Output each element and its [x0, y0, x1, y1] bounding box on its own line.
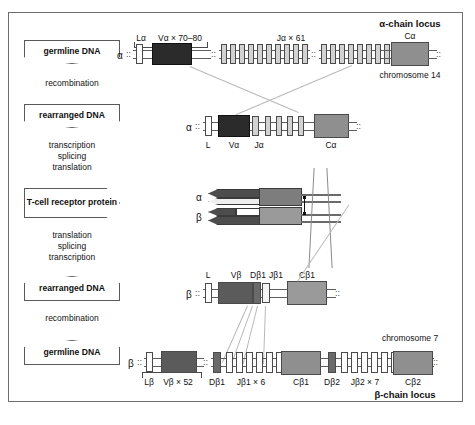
chain-label-beta-protein: β — [196, 212, 202, 224]
beta-germline-j2-segment — [361, 352, 368, 373]
alpha-germline-j-segment — [384, 44, 390, 64]
beta-germline-d1-label: Dβ1 — [209, 377, 225, 387]
protein-alpha-tm-top — [301, 194, 341, 196]
beta-germline-v-segment — [161, 351, 197, 373]
alpha-germline-j-segment — [248, 44, 254, 64]
alpha-germline-j-segment — [366, 44, 372, 64]
process-transcription-2: transcription — [49, 252, 95, 262]
chain-label-alpha-rearranged: α — [186, 122, 192, 134]
beta-germline-d1-segment — [213, 352, 221, 373]
alpha-germline-j-segment — [275, 44, 281, 64]
alpha-germline-j-segment — [257, 44, 263, 64]
figure-root: α-chain locus chromosome 14 chromosome 7… — [0, 0, 475, 425]
beta-germline-leader-label: Lβ — [144, 377, 154, 387]
process-recombination-bottom: recombination — [45, 313, 98, 323]
beta-germline-c2-label: Cβ2 — [405, 377, 421, 387]
beta-germline-j1-segment — [226, 352, 233, 373]
alpha-germline-j-segment — [357, 44, 363, 64]
protein-beta-c-domain — [259, 207, 302, 225]
protein-alpha-tm-bot — [301, 201, 341, 203]
alpha-rearranged-v-segment — [218, 115, 250, 137]
beta-germline-j2-segment — [351, 352, 358, 373]
alpha-germline-j-segment — [302, 44, 308, 64]
chain-label-alpha-germline: α — [117, 50, 123, 62]
beta-rearranged-d-label: Dβ1 — [250, 270, 266, 280]
alpha-rearranged-v-label: Vα — [229, 140, 240, 150]
alpha-rearranged-j-label: Jα — [254, 140, 263, 150]
beta-germline-d2-label: Dβ2 — [324, 377, 340, 387]
beta-germline-j1-label: Jβ1 × 6 — [237, 377, 265, 387]
alpha-germline-j-segment — [293, 44, 299, 64]
beta-rearranged-l-segment — [205, 283, 212, 303]
alpha-rearranged-l-label: L — [206, 140, 211, 150]
process-splicing-1: splicing — [58, 151, 86, 161]
disulfide-bond — [304, 198, 305, 213]
alpha-germline-j-segment — [239, 44, 245, 64]
beta-rearranged-v-segment — [218, 282, 253, 304]
process-splicing-2: splicing — [58, 241, 86, 251]
beta-germline-leader-segment — [146, 352, 153, 372]
alpha-germline-j-label: Jα × 61 — [277, 33, 305, 43]
beta-germline-j2-segment — [381, 352, 388, 373]
beta-germline-c1-label: Cβ1 — [293, 377, 309, 387]
alpha-chain-locus-title: α-chain locus — [379, 18, 440, 29]
process-translation-1: translation — [52, 162, 91, 172]
protein-beta-dj-domain — [236, 208, 260, 216]
beta-germline-c2-segment — [393, 351, 433, 375]
beta-germline-c1-segment — [281, 351, 321, 375]
beta-germline-j1-segment — [236, 352, 243, 373]
chain-label-beta-germline: β — [128, 358, 134, 370]
alpha-germline-j-segment — [221, 44, 227, 64]
alpha-germline-c-label: Cα — [404, 31, 415, 41]
alpha-germline-j-segment — [339, 44, 345, 64]
beta-rearranged-j-label: Jβ1 — [269, 270, 283, 280]
protein-beta-tm-top — [301, 214, 341, 216]
alpha-germline-v-segment — [152, 43, 192, 65]
beta-germline-j2-segment — [341, 352, 348, 373]
process-transcription-1: transcription — [49, 140, 95, 150]
alpha-rearranged-c-segment — [314, 114, 349, 138]
chain-label-alpha-protein: α — [196, 192, 202, 204]
beta-rearranged-v-label: Vβ — [231, 270, 242, 280]
beta-germline-v-label: Vβ × 52 — [163, 377, 193, 387]
alpha-germline-j-segment — [321, 44, 327, 64]
protein-alpha-c-domain — [259, 188, 302, 206]
alpha-rearranged-j-segment — [252, 116, 259, 136]
alpha-germline-j-segment — [266, 44, 272, 64]
process-recombination-top: recombination — [45, 78, 98, 88]
beta-germline-j1-segment — [266, 352, 273, 373]
chain-label-beta-rearranged: β — [186, 289, 192, 301]
alpha-germline-j-segment — [330, 44, 336, 64]
protein-beta-v-lower — [208, 216, 260, 225]
alpha-germline-leader-segment — [136, 44, 143, 64]
alpha-germline-j-segment — [284, 44, 290, 64]
beta-germline-j1-segment — [256, 352, 263, 373]
beta-germline-j2-label: Jβ2 × 7 — [351, 377, 379, 387]
beta-rearranged-j-segment — [262, 283, 270, 303]
beta-rearranged-l-label: L — [206, 270, 211, 280]
alpha-rearranged-extra-j-segment — [287, 116, 293, 136]
alpha-rearranged-extra-j-segment — [265, 116, 271, 136]
beta-chain-locus-title: β-chain locus — [374, 389, 435, 400]
alpha-germline-j-segment — [230, 44, 236, 64]
beta-germline-j2-segment — [371, 352, 378, 373]
beta-rearranged-c-segment — [287, 281, 327, 305]
stage-tcell-receptor-protein: T-cell receptor protein — [24, 188, 120, 218]
protein-alpha-v-lower — [208, 198, 260, 205]
process-translation-2: translation — [52, 230, 91, 240]
protein-alpha-v-domain — [208, 189, 260, 198]
alpha-germline-c-segment — [391, 42, 429, 66]
alpha-germline-j-segment — [348, 44, 354, 64]
alpha-rearranged-c-label: Cα — [325, 140, 336, 150]
alpha-rearranged-l-segment — [205, 116, 212, 136]
alpha-rearranged-extra-j-segment — [276, 116, 282, 136]
chromosome-14-label: chromosome 14 — [380, 70, 441, 80]
beta-germline-d2-segment — [328, 352, 336, 373]
beta-germline-j1-segment — [246, 352, 253, 373]
beta-rearranged-d-segment — [253, 282, 261, 304]
alpha-rearranged-extra-j-segment — [298, 116, 304, 136]
alpha-germline-j-segment — [375, 44, 381, 64]
chromosome-7-label: chromosome 7 — [382, 333, 438, 343]
